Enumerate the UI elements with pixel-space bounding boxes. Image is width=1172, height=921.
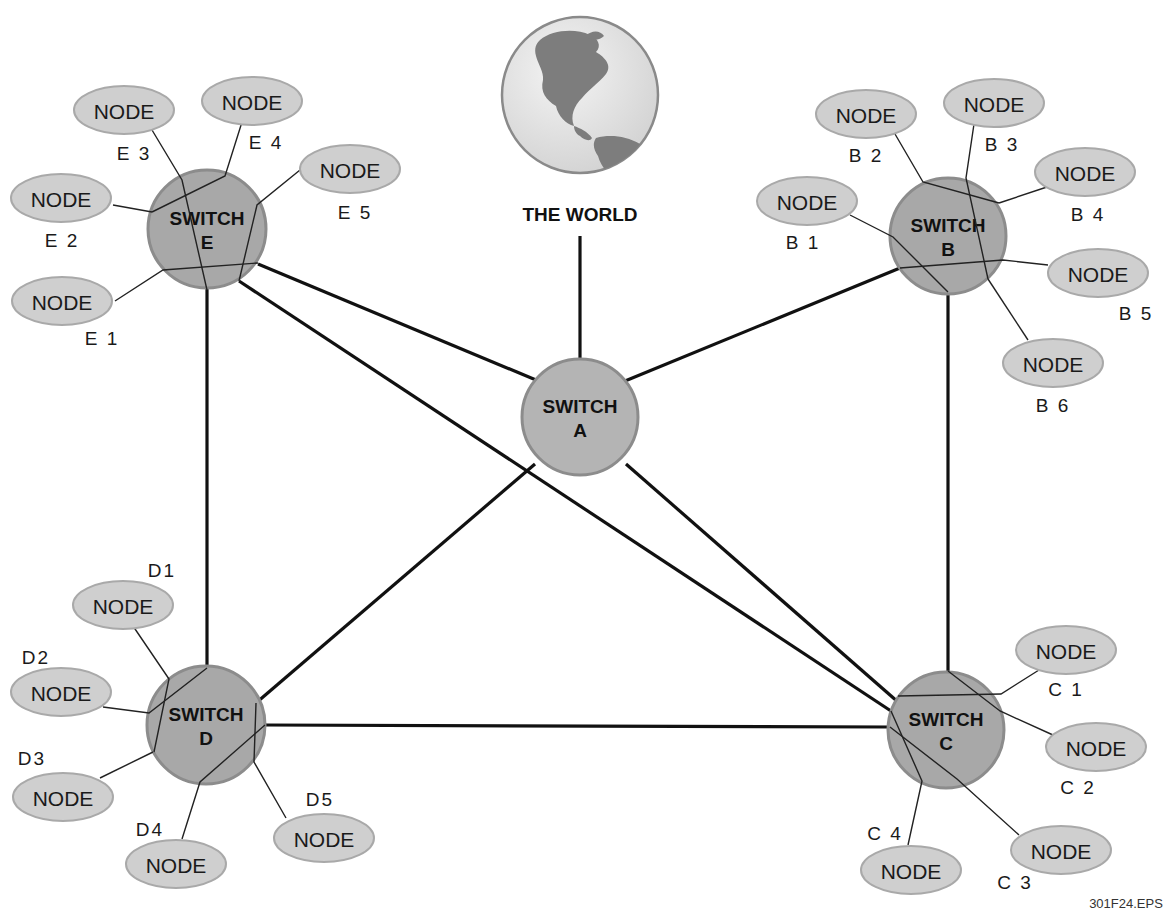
node-label: C 3 (997, 872, 1033, 893)
spoke-line-b6 (988, 279, 1028, 340)
node-text: NODE (1066, 737, 1127, 760)
node-text: NODE (1055, 162, 1116, 185)
trunk-lines (207, 236, 948, 727)
node-label: C 2 (1060, 777, 1096, 798)
trunk-line (239, 281, 891, 711)
switch-id: E (201, 232, 214, 253)
node-e3: NODEE 3 (74, 86, 174, 164)
node-text: NODE (964, 93, 1025, 116)
node-text: NODE (33, 787, 94, 810)
world-label: THE WORLD (522, 204, 637, 225)
switch-id: D (199, 728, 213, 749)
node-b4: NODEB 4 (1035, 148, 1135, 225)
node-b6: NODEB 6 (1003, 339, 1103, 416)
switch-circle (522, 359, 638, 475)
node-d5: NODED5 (274, 789, 374, 863)
network-topology-diagram: THE WORLD SWITCHASWITCHBSWITCHCSWITCHDSW… (0, 0, 1172, 921)
switch-id: C (939, 733, 953, 754)
node-label: D3 (18, 748, 46, 769)
figure-id: 301F24.EPS (1089, 896, 1163, 911)
node-text: NODE (881, 860, 942, 883)
node-e2: NODEE 2 (11, 174, 111, 251)
switch-label: SWITCH (543, 396, 618, 417)
trunk-line (256, 464, 535, 703)
switches: SWITCHASWITCHBSWITCHCSWITCHDSWITCHE (147, 170, 1006, 788)
node-text: NODE (32, 291, 93, 314)
spoke-line-e2 (113, 205, 152, 212)
node-text: NODE (1036, 640, 1097, 663)
switch-id: A (573, 420, 587, 441)
node-label: D2 (22, 647, 50, 668)
node-b1: NODEB 1 (757, 177, 857, 253)
node-label: C 1 (1048, 679, 1084, 700)
node-label: E 3 (117, 143, 152, 164)
node-text: NODE (222, 91, 283, 114)
switch-d: SWITCHD (147, 666, 265, 784)
switch-label: SWITCH (169, 704, 244, 725)
node-label: D1 (148, 560, 176, 581)
node-label: D5 (306, 789, 334, 810)
node-label: E 2 (45, 230, 80, 251)
node-text: NODE (320, 159, 381, 182)
node-label: B 4 (1071, 204, 1106, 225)
node-label: E 4 (249, 132, 284, 153)
switch-circle (890, 178, 1006, 294)
trunk-line (265, 725, 889, 727)
node-b3: NODEB 3 (944, 79, 1044, 155)
node-text: NODE (1068, 263, 1129, 286)
node-b2: NODEB 2 (816, 90, 916, 166)
node-text: NODE (93, 595, 154, 618)
node-e4: NODEE 4 (202, 77, 302, 153)
node-label: C 4 (867, 823, 903, 844)
trunk-line (626, 464, 898, 702)
node-text: NODE (1023, 353, 1084, 376)
node-text: NODE (836, 104, 897, 127)
switch-label: SWITCH (909, 709, 984, 730)
trunk-line (625, 268, 900, 381)
node-label: E 1 (85, 328, 120, 349)
node-text: NODE (94, 100, 155, 123)
switch-circle (147, 666, 265, 784)
node-e1: NODEE 1 (12, 277, 119, 349)
node-label: E 5 (338, 202, 373, 223)
node-label: B 5 (1119, 303, 1154, 324)
node-d3: NODED3 (13, 748, 113, 822)
node-label: B 1 (786, 232, 821, 253)
node-text: NODE (31, 188, 92, 211)
node-text: NODE (146, 854, 207, 877)
node-label: D4 (136, 819, 164, 840)
node-c3: NODEC 3 (997, 826, 1111, 893)
node-text: NODE (31, 682, 92, 705)
node-e5: NODEE 5 (300, 145, 400, 223)
node-b5: NODEB 5 (1048, 249, 1153, 324)
node-label: B 3 (985, 134, 1020, 155)
node-label: B 6 (1036, 395, 1071, 416)
node-text: NODE (777, 191, 838, 214)
node-d1: NODED1 (73, 560, 176, 630)
node-d4: NODED4 (126, 819, 226, 889)
spoke-line-d3 (100, 752, 153, 778)
node-c1: NODEC 1 (1016, 626, 1116, 700)
node-label: B 2 (849, 145, 884, 166)
switch-a: SWITCHA (522, 359, 638, 475)
world-globe-icon (502, 17, 658, 180)
switch-b: SWITCHB (890, 178, 1006, 294)
node-text: NODE (1031, 840, 1092, 863)
node-d2: NODED2 (11, 647, 111, 717)
node-text: NODE (294, 828, 355, 851)
node-c2: NODEC 2 (1046, 723, 1146, 798)
switch-id: B (941, 239, 955, 260)
switch-label: SWITCH (170, 208, 245, 229)
spoke-line-b4 (999, 186, 1050, 203)
